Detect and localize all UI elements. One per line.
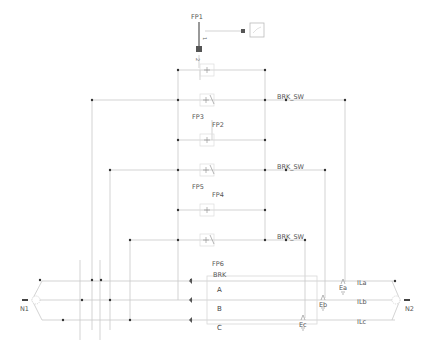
fp6-label: FP6 bbox=[212, 261, 224, 268]
brk-sw-label-3: BRK_SW bbox=[277, 234, 304, 241]
schematic-svg bbox=[0, 0, 432, 356]
fp1-label: FP1 bbox=[191, 14, 203, 21]
brk-label: BRK bbox=[213, 272, 226, 279]
scope-icon[interactable] bbox=[250, 23, 264, 37]
n2-connector-icon[interactable] bbox=[392, 296, 400, 304]
ilb-label: ILb bbox=[357, 299, 367, 306]
fp2-label: FP2 bbox=[212, 122, 224, 129]
port-1-label: 1 bbox=[202, 37, 207, 40]
phase-a-label: A bbox=[217, 287, 222, 294]
circuit-diagram: FP1 1 2 FP3 FP2 FP5 FP4 FP6 BRK_SW BRK_S… bbox=[0, 0, 432, 356]
brk-sw-label-1: BRK_SW bbox=[277, 94, 304, 101]
port-2-label: 2 bbox=[195, 58, 200, 61]
fp3-label: FP3 bbox=[192, 114, 204, 121]
scope-port-icon bbox=[241, 29, 245, 33]
n2-label: N2 bbox=[405, 306, 414, 313]
phase-b-label: B bbox=[217, 306, 222, 313]
fp5-label: FP5 bbox=[192, 184, 204, 191]
eb-label: Eb bbox=[319, 302, 327, 309]
fp4-label: FP4 bbox=[212, 192, 224, 199]
ila-label: ILa bbox=[357, 280, 367, 287]
n1-connector-icon[interactable] bbox=[32, 296, 40, 304]
ilc-label: ILc bbox=[357, 319, 366, 326]
switch-icons bbox=[189, 64, 214, 323]
ec-label: Ec bbox=[299, 322, 307, 329]
n1-label: N1 bbox=[20, 306, 29, 313]
fault-block-icon[interactable] bbox=[196, 46, 202, 52]
phase-c-label: C bbox=[217, 325, 222, 332]
brk-sw-label-2: BRK_SW bbox=[277, 164, 304, 171]
ea-label: Ea bbox=[339, 285, 347, 292]
